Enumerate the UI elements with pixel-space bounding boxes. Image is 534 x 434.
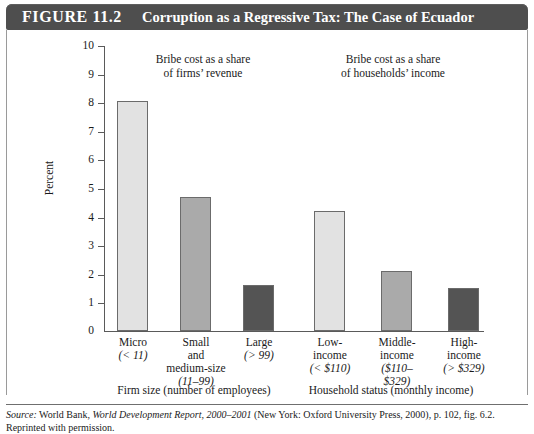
y-tick-6 <box>98 160 104 161</box>
cat-label-low-sub: income <box>298 349 362 362</box>
y-tick-label-1: 1 <box>66 297 94 309</box>
y-tick-7 <box>98 132 104 133</box>
cat-label-high-sub: income <box>432 349 496 362</box>
annotation-households-line2: of households’ income <box>341 67 445 79</box>
cat-label-high-income: High- income (> $329) <box>432 336 496 375</box>
group-title-household-status: Household status (monthly income) <box>286 384 496 396</box>
source-divider <box>6 404 528 405</box>
annotation-firms-line2: of firms’ revenue <box>164 67 243 79</box>
y-tick-1 <box>98 303 104 304</box>
cat-label-large-sub: (> 99) <box>228 349 290 362</box>
annotation-firms-line1: Bribe cost as a share <box>156 53 251 65</box>
cat-label-middle-name: Middle- <box>378 336 415 348</box>
y-tick-3 <box>98 246 104 247</box>
y-tick-2 <box>98 275 104 276</box>
cat-label-large: Large (> 99) <box>228 336 290 362</box>
x-axis-line <box>104 331 484 332</box>
source-note: Source: World Bank, World Development Re… <box>6 409 530 434</box>
y-tick-label-3: 3 <box>66 240 94 252</box>
annotation-firms: Bribe cost as a share of firms’ revenue <box>118 52 288 80</box>
y-tick-label-2: 2 <box>66 269 94 281</box>
y-tick-9 <box>98 75 104 76</box>
y-tick-label-8: 8 <box>66 97 94 109</box>
annotation-households-line1: Bribe cost as a share <box>346 53 441 65</box>
y-tick-label-6: 6 <box>66 154 94 166</box>
group-title-firm-size: Firm size (number of employees) <box>94 384 294 396</box>
annotation-households: Bribe cost as a share of households’ inc… <box>300 52 486 80</box>
cat-label-large-name: Large <box>246 336 273 348</box>
cat-label-middle-sub: income <box>363 349 431 362</box>
cat-label-high-name: High- <box>451 336 478 348</box>
bar-low-income <box>314 211 345 331</box>
cat-label-low-name: Low- <box>318 336 343 348</box>
source-line1-a: World Bank, <box>37 409 93 420</box>
cat-label-low-sub2: (< $110) <box>298 362 362 375</box>
bar-large <box>243 285 274 331</box>
bar-small-medium <box>180 197 211 331</box>
cat-label-middle-income: Middle- income ($110– $329) <box>363 336 431 388</box>
source-label: Source: <box>6 409 37 420</box>
bar-middle-income <box>381 271 412 331</box>
y-tick-8 <box>98 103 104 104</box>
cat-label-small-name: Small <box>183 336 210 348</box>
y-tick-label-5: 5 <box>66 183 94 195</box>
y-tick-10 <box>98 46 104 47</box>
y-axis-line <box>104 46 105 332</box>
bar-micro <box>117 101 148 331</box>
cat-label-high-sub2: (> $329) <box>432 362 496 375</box>
bar-high-income <box>448 288 479 331</box>
y-tick-label-0: 0 <box>66 325 94 337</box>
source-line1-b: (New York: Oxford University Press, 2000… <box>251 409 494 420</box>
y-tick-label-10: 10 <box>66 40 94 52</box>
cat-label-middle-sub2: ($110– <box>363 362 431 375</box>
cat-label-low-income: Low- income (< $110) <box>298 336 362 375</box>
y-axis-title: Percent <box>43 123 55 233</box>
y-tick-5 <box>98 189 104 190</box>
y-tick-label-7: 7 <box>66 126 94 138</box>
source-line2: Reprinted with permission. <box>6 422 115 433</box>
source-publication-title: World Development Report, 2000–2001 <box>92 409 251 420</box>
y-tick-label-4: 4 <box>66 212 94 224</box>
y-tick-label-9: 9 <box>66 69 94 81</box>
cat-label-micro-name: Micro <box>119 336 147 348</box>
y-tick-4 <box>98 218 104 219</box>
cat-label-small-sub2: medium-size <box>150 362 242 375</box>
